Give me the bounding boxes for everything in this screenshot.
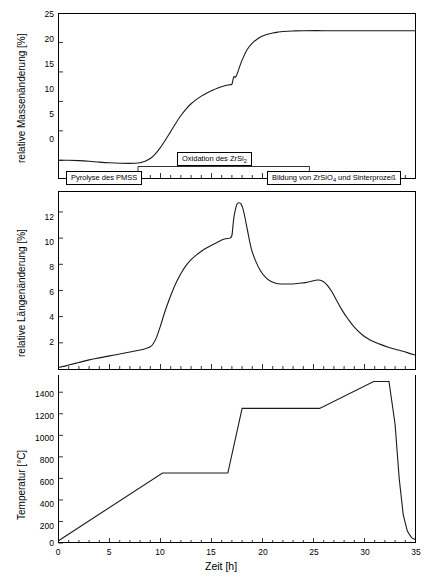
x-tick-20: 20	[253, 547, 273, 557]
annotation-oxidation-text: Oxidation des ZrSi	[182, 154, 244, 163]
annotation-bildung-suffix: und Sinterprozeß	[336, 173, 396, 182]
annotation-bildung: Bildung von ZrSiO4 und Sinterprozeß	[267, 171, 401, 185]
y-tick-length-2: 2	[34, 337, 54, 347]
y-tick-mass-5: 5	[34, 109, 54, 119]
y-tick-mass-25: 25	[34, 9, 54, 19]
annotation-bildung-text: Bildung von ZrSiO	[272, 173, 333, 182]
annotation-pyrolyse: Pyrolyse des PMSS	[66, 171, 142, 185]
annotation-oxidation: Oxidation des ZrSi2	[177, 152, 252, 166]
plot-area-length	[58, 191, 416, 370]
y-axis-label-length: relative Längenänderung [%]	[16, 229, 27, 357]
y-tick-length-6: 6	[34, 287, 54, 297]
y-tick-temp-600: 600	[26, 477, 54, 487]
y-tick-length-12: 12	[34, 212, 54, 222]
plot-area-temperature	[58, 375, 416, 547]
y-tick-mass-15: 15	[34, 59, 54, 69]
annotation-bildung-subscript: 4	[333, 177, 336, 183]
y-tick-temp-800: 800	[26, 455, 54, 465]
y-tick-length-10: 10	[34, 237, 54, 247]
annotation-oxidation-subscript: 2	[244, 158, 247, 164]
x-tick-10: 10	[150, 547, 170, 557]
y-tick-temp-1000: 1000	[26, 433, 54, 443]
y-tick-mass-20: 20	[34, 34, 54, 44]
x-tick-5: 5	[99, 547, 119, 557]
y-tick-mass-0: 0	[34, 134, 54, 144]
x-tick-30: 30	[355, 547, 375, 557]
x-axis-label: Zeit [h]	[205, 560, 237, 572]
y-tick-length-8: 8	[34, 262, 54, 272]
x-tick-35: 35	[406, 547, 426, 557]
y-axis-label-mass: relative Massenänderung [%]	[16, 33, 27, 163]
figure-thermal-analysis: relative Massenänderung [%] 25 20 15 10 …	[0, 0, 428, 578]
y-tick-mass-10: 10	[34, 84, 54, 94]
annotation-pyrolyse-text: Pyrolyse des PMSS	[71, 173, 137, 182]
y-tick-temp-200: 200	[26, 521, 54, 531]
y-tick-temp-1400: 1400	[26, 389, 54, 399]
x-tick-15: 15	[201, 547, 221, 557]
x-tick-0: 0	[48, 547, 68, 557]
y-tick-length-4: 4	[34, 312, 54, 322]
y-tick-temp-400: 400	[26, 499, 54, 509]
y-tick-temp-1200: 1200	[26, 411, 54, 421]
x-tick-25: 25	[304, 547, 324, 557]
